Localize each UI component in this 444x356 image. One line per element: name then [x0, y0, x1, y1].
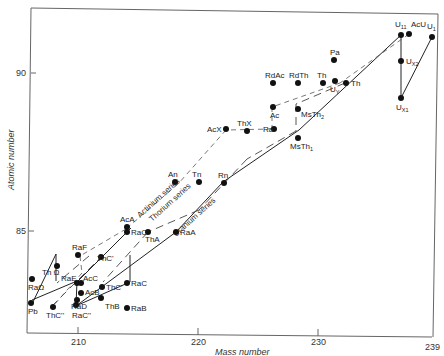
point-raomega: [29, 276, 35, 282]
y-axis-label: Atomic number: [6, 128, 16, 191]
decay-chart: 90 85 210 220 230 239 Mass number Atomic…: [0, 0, 444, 356]
label-ux1: UX1: [396, 103, 409, 113]
label-ra: Ra: [263, 125, 274, 134]
label-acx: AcX: [207, 125, 222, 134]
point-labels: U1 U11 AcU UX2 UX1 Pa Th Th UY RdAc RdTh…: [28, 20, 436, 320]
point-uy: [332, 78, 338, 84]
label-thcp: ThC': [97, 254, 114, 263]
label-raomega: RaΩ: [28, 283, 44, 292]
label-racpp: RaC'': [72, 311, 92, 320]
label-aca: AcA: [120, 215, 135, 224]
point-raa: [173, 229, 179, 235]
point-acb: [78, 290, 84, 296]
y-tick-85: 85: [16, 226, 26, 236]
label-tha: ThA: [145, 235, 160, 244]
point-raf: [75, 252, 81, 258]
label-msth2: MsTh2: [301, 110, 324, 120]
x-tick-220: 220: [191, 337, 206, 347]
point-ux1: [398, 95, 404, 101]
actinium-series-lines: [54, 34, 409, 305]
label-tn: Tn: [192, 170, 201, 179]
point-ux2: [398, 58, 404, 64]
point-pb: [28, 300, 34, 306]
point-thx: [244, 128, 250, 134]
point-th-left: [320, 80, 326, 86]
label-rn: Rn: [218, 171, 228, 180]
point-an: [172, 179, 178, 185]
label-th-right: Th: [351, 79, 360, 88]
uranium-series-lines: [32, 35, 432, 306]
point-u11: [398, 32, 404, 38]
label-msth1: MsTh1: [290, 142, 313, 152]
point-rdac: [270, 80, 276, 86]
x-axis-label: Mass number: [215, 347, 271, 356]
point-rdth: [295, 80, 301, 86]
point-acu: [406, 31, 412, 37]
point-ac: [270, 104, 276, 110]
label-pb: Pb: [28, 307, 38, 316]
point-rac: [124, 280, 130, 286]
label-raf: RaF: [72, 243, 87, 252]
x-tick-239: 239: [425, 342, 440, 352]
point-acx: [223, 126, 229, 132]
label-rab: RaB: [131, 304, 147, 313]
label-thb: ThB: [105, 302, 120, 311]
label-thcpp: ThC'': [46, 311, 65, 320]
label-rdth: RdTh: [289, 71, 309, 80]
label-an: An: [168, 170, 178, 179]
y-tick-90: 90: [16, 68, 26, 78]
x-tick-230: 230: [311, 337, 326, 347]
label-thx: ThX: [237, 119, 252, 128]
point-racp: [124, 229, 130, 235]
label-ux2: UX2: [406, 57, 419, 67]
label-rac: RaC: [131, 279, 147, 288]
point-u1: [429, 34, 435, 40]
point-rn: [221, 180, 227, 186]
label-acb: AcB: [85, 288, 100, 297]
point-msth1: [295, 135, 301, 141]
point-pa: [331, 57, 337, 63]
point-rab: [124, 305, 130, 311]
label-uy: UY: [330, 85, 340, 95]
label-thomega: Th Ω: [42, 268, 60, 277]
point-thcpp: [50, 304, 56, 310]
label-rdac: RdAc: [265, 71, 285, 80]
point-thc: [99, 284, 105, 290]
x-tick-210: 210: [71, 337, 86, 347]
label-acu: AcU: [411, 20, 426, 29]
point-tn: [196, 179, 202, 185]
label-rae: RaE: [61, 274, 77, 283]
label-rad: RaD: [71, 302, 87, 311]
label-pa: Pa: [330, 48, 340, 57]
label-u11: U11: [395, 20, 407, 30]
label-u1: U1: [427, 22, 436, 32]
label-raa: RaA: [180, 228, 196, 237]
label-th-left: Th: [317, 71, 326, 80]
label-acc: AcC: [83, 274, 98, 283]
label-ac: Ac: [270, 111, 279, 120]
point-th-right: [343, 80, 349, 86]
label-thc: ThC': [106, 283, 123, 292]
